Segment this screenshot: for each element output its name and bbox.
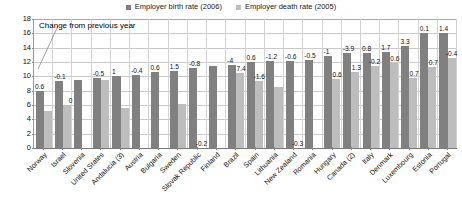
x-axis-label-cell: Canada (2) bbox=[341, 150, 360, 206]
bar-group[interactable]: 0.10.7 bbox=[419, 19, 438, 148]
bar-death-rate[interactable] bbox=[448, 58, 456, 148]
bar-death-rate[interactable] bbox=[101, 80, 109, 148]
bar-group[interactable]: 1 bbox=[111, 19, 130, 148]
bar-birth-rate[interactable] bbox=[286, 61, 294, 148]
bar-group[interactable]: 0.8-0.2 bbox=[361, 19, 380, 148]
y-axis-tick-label: 12 bbox=[23, 58, 31, 66]
data-label-birth-change: -4 bbox=[227, 57, 233, 64]
bar-death-rate[interactable] bbox=[371, 66, 379, 148]
bar-death-rate[interactable] bbox=[428, 67, 436, 148]
x-axis-tick-mark bbox=[312, 147, 313, 150]
x-axis-labels: NorwayIsraelSloveniaUnited StatesAndaluc… bbox=[33, 150, 457, 206]
bar-group[interactable]: -0.5 bbox=[92, 19, 111, 148]
x-axis-tick-mark bbox=[158, 147, 159, 150]
bar-birth-rate[interactable] bbox=[189, 68, 197, 148]
data-label-birth-change: -1 bbox=[324, 48, 330, 55]
legend-swatch-birth-icon bbox=[126, 5, 131, 10]
bar-birth-rate[interactable] bbox=[36, 91, 44, 148]
data-label-birth-change: -0.8 bbox=[189, 60, 200, 67]
data-label-birth-change: 1 bbox=[112, 68, 116, 75]
data-label-birth-change: 1.5 bbox=[170, 63, 179, 70]
chart-legend: Employer birth rate (2006) Employer deat… bbox=[0, 1, 462, 13]
bar-death-rate[interactable] bbox=[178, 104, 186, 148]
legend-label-death: Employer death rate (2005) bbox=[245, 3, 336, 11]
x-axis-label-cell: Bulgaria bbox=[149, 150, 168, 206]
bar-birth-rate[interactable] bbox=[363, 53, 371, 148]
y-axis-tick-label: 8 bbox=[27, 87, 31, 95]
bar-birth-rate[interactable] bbox=[170, 71, 178, 148]
bar-birth-rate[interactable] bbox=[382, 52, 390, 148]
bar-birth-rate[interactable] bbox=[112, 76, 120, 148]
bar-death-rate[interactable] bbox=[409, 78, 417, 148]
y-axis-tick-label: 6 bbox=[27, 101, 31, 109]
bar-group[interactable]: -1.2 bbox=[265, 19, 284, 148]
y-axis-tick-label: 4 bbox=[27, 115, 31, 123]
annotation-change-from-previous-year: Change from previous year bbox=[39, 21, 136, 31]
bar-birth-rate[interactable] bbox=[55, 81, 63, 148]
data-label-birth-change: 0.1 bbox=[420, 25, 429, 32]
bar-group[interactable]: -0.4 bbox=[130, 19, 149, 148]
x-axis-label-cell: Portugal bbox=[438, 150, 457, 206]
bar-death-rate[interactable] bbox=[44, 111, 52, 148]
y-axis-tick-label: 10 bbox=[23, 72, 31, 80]
bar-birth-rate[interactable] bbox=[93, 78, 101, 148]
y-axis-tick-label: 0 bbox=[27, 144, 31, 152]
bar-group[interactable] bbox=[207, 19, 226, 148]
bar-death-rate[interactable] bbox=[63, 105, 71, 148]
bar-death-rate[interactable] bbox=[236, 73, 244, 148]
y-axis-tick-mark bbox=[32, 148, 34, 149]
bar-birth-rate[interactable] bbox=[420, 33, 428, 148]
y-axis-tick-label: 16 bbox=[23, 29, 31, 37]
legend-item-birth-rate: Employer birth rate (2006) bbox=[126, 3, 222, 11]
bar-birth-rate[interactable] bbox=[151, 72, 159, 148]
bar-group[interactable]: 0.6-1.6 bbox=[246, 19, 265, 148]
data-label-birth-change: -0.5 bbox=[93, 70, 104, 77]
x-axis-tick-mark bbox=[100, 147, 101, 150]
bar-group[interactable]: -47.4 bbox=[226, 19, 245, 148]
annotation-leader-line bbox=[37, 26, 59, 70]
bar-group[interactable]: -0.8-0.2 bbox=[188, 19, 207, 148]
bar-group[interactable]: -0.6-0.3 bbox=[284, 19, 303, 148]
bar-group[interactable]: 1.5 bbox=[169, 19, 188, 148]
bar-group[interactable]: 3.30.7 bbox=[399, 19, 418, 148]
x-axis-label-cell: Andalucia (3) bbox=[110, 150, 129, 206]
bar-birth-rate[interactable] bbox=[266, 61, 274, 148]
y-axis-tick-label: 18 bbox=[23, 15, 31, 23]
bar-death-rate[interactable] bbox=[121, 108, 129, 148]
bar-group[interactable]: 1.4-0.4 bbox=[438, 19, 457, 148]
data-label-death-change: -0.2 bbox=[196, 140, 207, 147]
bar-birth-rate[interactable] bbox=[209, 66, 217, 148]
x-axis-label-cell: Estonia bbox=[418, 150, 437, 206]
bar-birth-rate[interactable] bbox=[324, 56, 332, 148]
x-axis-tick-mark bbox=[274, 147, 275, 150]
bar-group[interactable]: -3.91.3 bbox=[342, 19, 361, 148]
bar-group[interactable]: -10.6 bbox=[323, 19, 342, 148]
bar-death-rate[interactable] bbox=[390, 63, 398, 148]
bar-birth-rate[interactable] bbox=[228, 65, 236, 148]
bar-birth-rate[interactable] bbox=[132, 75, 140, 148]
bar-group[interactable]: -0.5 bbox=[303, 19, 322, 148]
bar-group[interactable] bbox=[72, 19, 91, 148]
y-axis-tick-label: 2 bbox=[27, 130, 31, 138]
bar-death-rate[interactable] bbox=[255, 81, 263, 148]
data-label-death-change: 0.7 bbox=[410, 70, 419, 77]
x-axis-label-cell: Brazil bbox=[226, 150, 245, 206]
x-axis-tick-mark bbox=[139, 147, 140, 150]
bar-birth-rate[interactable] bbox=[401, 46, 409, 148]
bar-death-rate[interactable] bbox=[332, 79, 340, 148]
bar-group[interactable]: 1.70.6 bbox=[380, 19, 399, 148]
bar-death-rate[interactable] bbox=[274, 87, 282, 148]
data-label-death-change: -1.6 bbox=[253, 73, 264, 80]
bar-birth-rate[interactable] bbox=[305, 60, 313, 148]
x-axis-tick-mark bbox=[351, 147, 352, 150]
x-axis-tick-mark bbox=[177, 147, 178, 150]
bar-birth-rate[interactable] bbox=[74, 80, 82, 148]
data-label-death-change: -0.4 bbox=[446, 50, 457, 57]
data-label-death-change: 0.7 bbox=[429, 59, 438, 66]
x-axis-tick-mark bbox=[216, 147, 217, 150]
bar-group[interactable]: 0.6 bbox=[149, 19, 168, 148]
bar-birth-rate[interactable] bbox=[343, 53, 351, 148]
x-axis-label-cell: Romania bbox=[303, 150, 322, 206]
data-label-death-change: -0.3 bbox=[292, 140, 303, 147]
bar-death-rate[interactable] bbox=[351, 72, 359, 148]
